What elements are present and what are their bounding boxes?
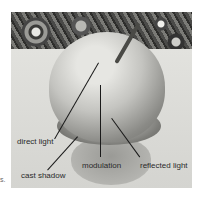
label-reflected-light: reflected light bbox=[140, 162, 188, 170]
label-direct-light: direct light bbox=[17, 138, 53, 146]
leader-modulation bbox=[100, 85, 101, 157]
apple-body bbox=[49, 32, 165, 142]
caption-fragment: s. bbox=[0, 176, 5, 183]
label-modulation: modulation bbox=[82, 162, 121, 170]
apple-photo: direct light cast shadow modulation refl… bbox=[11, 12, 192, 188]
label-cast-shadow: cast shadow bbox=[21, 172, 65, 180]
